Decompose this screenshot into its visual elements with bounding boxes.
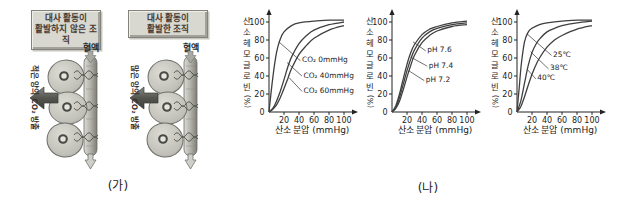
- co2-release-label: 많은 양의 CO₂ 방출: [130, 56, 141, 140]
- tissue-panel-high-metabolism: 대사 활동이 활발한 조직 혈액 많은 양의 CO₂ 방출: [128, 10, 210, 185]
- y-tick-label: 60: [254, 54, 264, 63]
- y-axis-title-char: 산: [491, 16, 499, 26]
- chart-ph-svg: 20406080100020406080100산소헤모글로빈(%)산소 분압 (…: [356, 4, 486, 144]
- y-tick-label: 80: [502, 36, 512, 45]
- x-tick-label: 40: [417, 116, 427, 125]
- series-label-2: pH 7.2: [426, 75, 450, 84]
- y-axis-unit: (%): [243, 95, 252, 108]
- x-tick-label: 20: [279, 116, 289, 125]
- x-tick-label: 100: [584, 116, 599, 125]
- y-axis-title-char: 로: [366, 71, 374, 81]
- y-tick-label: 40: [377, 72, 387, 81]
- leader-line-2: [528, 70, 536, 79]
- y-tick-label: 0: [382, 108, 387, 117]
- y-axis-title-char: 모: [366, 49, 374, 59]
- y-axis-title-char: 산: [366, 16, 374, 26]
- panel-ga-label: (가): [96, 176, 140, 193]
- x-axis-title: 산소 분압 (mmHg): [398, 124, 473, 135]
- x-tick-label: 20: [402, 116, 412, 125]
- y-tick-label: 80: [254, 36, 264, 45]
- x-tick-label: 40: [294, 116, 304, 125]
- chart-temperature-svg: 20406080100020406080100산소헤모글로빈(%)산소 분압 (…: [481, 4, 611, 144]
- y-tick-label: 20: [377, 90, 387, 99]
- caption-line-1: 대사 활동이: [33, 13, 99, 24]
- x-axis-title: 산소 분압 (mmHg): [523, 124, 598, 135]
- x-tick-label: 40: [542, 116, 552, 125]
- series-label-2: 40℃: [537, 73, 555, 82]
- x-tick-label: 60: [309, 116, 319, 125]
- y-axis-title-char: 산: [243, 16, 251, 26]
- x-axis-title: 산소 분압 (mmHg): [275, 124, 350, 135]
- y-tick-label: 0: [507, 108, 512, 117]
- series-label-1: pH 7.4: [429, 61, 454, 70]
- series-label-2: CO₂ 60mmHg: [304, 86, 355, 95]
- x-axis-arrow: [600, 109, 606, 114]
- y-tick-label: 0: [259, 108, 264, 117]
- x-tick-label: 60: [557, 116, 567, 125]
- caption-box: 대사 활동이 활발한 조직: [128, 10, 208, 38]
- y-axis-title-char: 로: [491, 71, 499, 81]
- chart-oxygen-dissociation-co2: 20406080100020406080100산소헤모글로빈(%)산소 분압 (…: [233, 4, 363, 144]
- y-axis-title-char: 글: [243, 60, 251, 70]
- x-tick-label: 20: [527, 116, 537, 125]
- y-tick-label: 20: [502, 90, 512, 99]
- series-label-0: CO₂ 0mmHg: [302, 55, 348, 64]
- y-axis-arrow: [266, 9, 271, 15]
- y-tick-label: 100: [497, 18, 512, 27]
- y-tick-label: 60: [502, 54, 512, 63]
- y-axis-arrow: [514, 9, 519, 15]
- y-axis-title-char: 로: [243, 71, 251, 81]
- x-tick-label: 80: [447, 116, 457, 125]
- y-axis-title-char: 모: [243, 49, 251, 59]
- leader-line-1: [531, 52, 549, 69]
- chart-oxygen-dissociation-ph: 20406080100020406080100산소헤모글로빈(%)산소 분압 (…: [356, 4, 486, 144]
- tissue-panel-low-metabolism: 대사 활동이 활발하지 않은 조직 혈액 적은 양의 CO₂ 방출: [28, 10, 108, 185]
- x-tick-label: 100: [336, 116, 351, 125]
- chart-co2-svg: 20406080100020406080100산소헤모글로빈(%)산소 분압 (…: [233, 4, 363, 144]
- y-tick-label: 100: [372, 18, 387, 27]
- y-axis-title-char: 빈: [366, 82, 374, 92]
- y-tick-label: 60: [377, 54, 387, 63]
- series-label-0: pH 7.6: [427, 45, 452, 54]
- caption-line-2: 활발한 조직: [130, 24, 206, 35]
- series-label-0: 25℃: [553, 50, 571, 59]
- y-axis-title-char: 소: [491, 27, 499, 37]
- panel-na-label: (나): [406, 178, 450, 195]
- y-axis-title-char: 모: [491, 49, 499, 59]
- x-tick-label: 80: [324, 116, 334, 125]
- y-tick-label: 40: [502, 72, 512, 81]
- y-axis-title-char: 헤: [243, 38, 251, 48]
- y-tick-label: 20: [254, 90, 264, 99]
- y-axis-title-char: 빈: [243, 82, 251, 92]
- x-tick-label: 100: [459, 116, 474, 125]
- y-tick-label: 80: [377, 36, 387, 45]
- x-tick-label: 60: [432, 116, 442, 125]
- leader-line-2: [289, 78, 302, 92]
- chart-oxygen-dissociation-temperature: 20406080100020406080100산소헤모글로빈(%)산소 분압 (…: [481, 4, 611, 144]
- textbook-figure: 대사 활동이 활발하지 않은 조직 혈액 적은 양의 CO₂ 방출 대사 활동이…: [0, 0, 623, 207]
- y-axis-title-char: 헤: [366, 38, 374, 48]
- y-axis-title-char: 소: [366, 27, 374, 37]
- y-axis-title-char: 글: [491, 60, 499, 70]
- x-tick-label: 80: [572, 116, 582, 125]
- y-axis-arrow: [389, 9, 394, 15]
- series-label-1: CO₂ 40mmHg: [304, 71, 355, 80]
- y-axis-title-char: 소: [243, 27, 251, 37]
- y-axis-unit: (%): [366, 95, 375, 108]
- y-axis-title-char: 빈: [491, 82, 499, 92]
- series-label-1: 38℃: [550, 63, 568, 72]
- y-tick-label: 40: [254, 72, 264, 81]
- y-tick-label: 100: [249, 18, 264, 27]
- y-axis-title-char: 글: [366, 60, 374, 70]
- y-axis-title-char: 헤: [491, 38, 499, 48]
- leader-line-2: [409, 71, 425, 81]
- y-axis-unit: (%): [491, 95, 500, 108]
- co2-release-label: 적은 양의 CO₂ 방출: [30, 56, 41, 140]
- caption-line-1: 대사 활동이: [130, 13, 206, 24]
